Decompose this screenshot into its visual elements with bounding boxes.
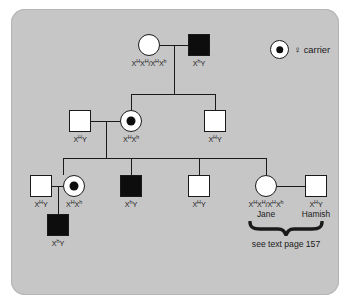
legend: ♀ carrier xyxy=(270,40,330,59)
individual-III-1-genotype: XHY xyxy=(34,200,47,209)
carrier-dot-icon xyxy=(127,117,136,126)
individual-II-3-genotype: XHY xyxy=(208,135,221,144)
individual-I-1-symbol xyxy=(138,34,160,56)
descent-line-I xyxy=(174,45,175,94)
individual-III-6-symbol xyxy=(305,175,327,197)
individual-III-2-genotype: XHXh xyxy=(66,200,82,209)
sib-stem-III-4 xyxy=(199,158,200,175)
individual-IV-1-genotype: XhY xyxy=(52,239,64,248)
individual-II-3-symbol xyxy=(204,110,226,132)
descent-line-III-left xyxy=(58,186,59,214)
individual-I-2-symbol xyxy=(188,34,210,56)
carrier-female-symbol-icon xyxy=(270,40,289,59)
individual-II-1-symbol xyxy=(69,110,91,132)
individual-III-1-symbol xyxy=(30,175,52,197)
individual-III-6-genotype: XHY xyxy=(309,200,322,209)
individual-III-2-symbol xyxy=(63,175,85,197)
individual-III-3-genotype: XhY xyxy=(125,200,137,209)
individual-III-4-genotype: XHY xyxy=(192,200,205,209)
individual-III-3-symbol xyxy=(120,175,142,197)
sib-stem-II-2 xyxy=(131,94,132,110)
descent-line-II xyxy=(106,121,107,158)
individual-IV-1-symbol xyxy=(47,214,69,236)
sibship-line-III xyxy=(63,158,267,159)
individual-II-1-genotype: XHY xyxy=(73,135,86,144)
individual-III-6-name: Hamish xyxy=(302,209,330,219)
legend-label: ♀ carrier xyxy=(294,44,330,55)
mating-line-jane-hamish xyxy=(277,186,305,187)
figure-panel: ♀ carrier XHXH/XHXh XhY XHY XHXh xyxy=(11,9,339,295)
individual-II-2-symbol xyxy=(120,110,142,132)
figure-caption: see text page 157 xyxy=(252,239,320,249)
sib-stem-III-3 xyxy=(131,158,132,175)
brace-icon xyxy=(248,221,324,236)
individual-III-5-name: Jane xyxy=(257,209,275,219)
sib-stem-III-2 xyxy=(63,158,64,175)
individual-I-2-genotype: XhY xyxy=(193,59,205,68)
sib-stem-III-5 xyxy=(266,158,267,175)
sibship-line-II xyxy=(131,94,216,95)
carrier-dot-icon xyxy=(70,182,79,191)
individual-III-5-genotype: XHXH/XHXh xyxy=(249,200,284,209)
individual-II-2-genotype: XHXh xyxy=(123,135,139,144)
individual-III-5-symbol xyxy=(255,175,277,197)
carrier-dot-icon xyxy=(276,46,284,54)
individual-I-1-genotype: XHXH/XHXh xyxy=(132,59,167,68)
pedigree-figure: ♀ carrier XHXH/XHXh XhY XHY XHXh xyxy=(0,0,350,304)
individual-III-4-symbol xyxy=(188,175,210,197)
sib-stem-II-3 xyxy=(215,94,216,110)
